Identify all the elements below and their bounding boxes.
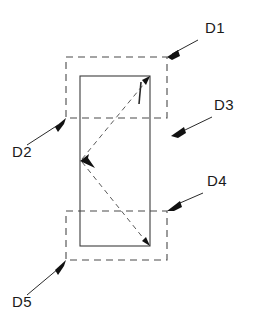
callout-d1-label: D1 [205, 19, 225, 36]
callout-d2: D2 [12, 118, 66, 160]
callout-d5: D5 [12, 260, 66, 310]
callout-d4-leader [180, 193, 203, 203]
callout-d2-arrowhead [55, 118, 66, 132]
internal-diagonal-upper-arrowhead [142, 76, 150, 85]
callout-d4: D4 [167, 172, 227, 211]
callout-d2-label: D2 [12, 143, 32, 160]
callout-d3: D3 [171, 96, 234, 138]
technical-diagram: D1 D2 D3 D4 D5 [0, 0, 253, 324]
callout-d4-label: D4 [207, 172, 227, 189]
internal-diagonal-lower-arrowhead [142, 237, 150, 246]
callout-d2-leader [27, 125, 58, 145]
callout-d5-label: D5 [12, 293, 32, 310]
vertical-tick-mark [139, 82, 141, 104]
internal-diagonal-lower [82, 162, 148, 244]
callout-d4-arrowhead [167, 201, 182, 211]
internal-converge-arrowhead [80, 154, 95, 168]
callout-d3-arrowhead [171, 127, 186, 138]
diagram-canvas: D1 D2 D3 D4 D5 [0, 0, 253, 324]
callout-d1-arrowhead [167, 50, 180, 60]
callout-d5-arrowhead [55, 260, 66, 275]
dashed-rect-top [66, 57, 167, 118]
callout-d3-leader [185, 117, 212, 130]
callout-d1: D1 [167, 19, 225, 60]
callout-d5-leader [27, 269, 58, 295]
internal-diagonal-upper [82, 79, 148, 159]
callout-d3-label: D3 [214, 96, 234, 113]
dashed-rect-bottom [66, 211, 167, 260]
